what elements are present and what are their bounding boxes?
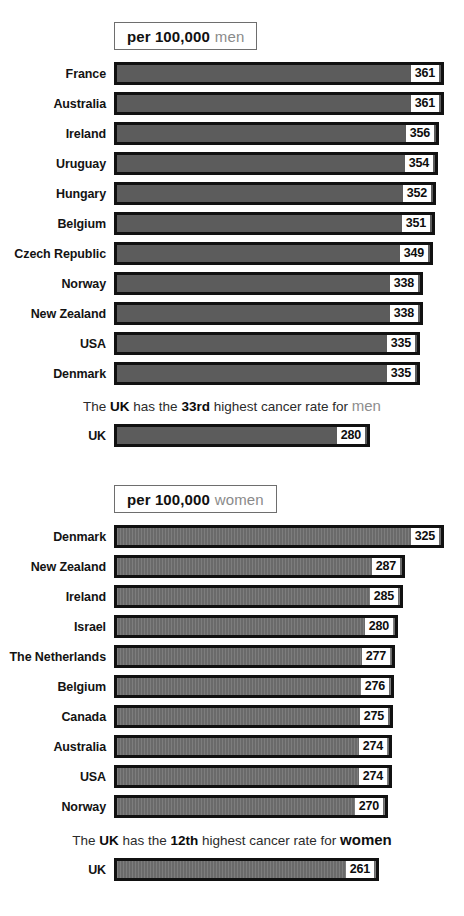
bar-row: Israel280	[0, 612, 464, 642]
bar-track: 361	[114, 59, 464, 89]
bar-row-label: Hungary	[0, 187, 114, 201]
bar-track: 325	[114, 522, 464, 552]
chart-women-annotation: The UK has the 12th highest cancer rate …	[0, 831, 464, 848]
bar-row: USA335	[0, 329, 464, 359]
bar: 349	[114, 242, 433, 265]
bar: 356	[114, 122, 439, 145]
bar: 338	[114, 302, 423, 325]
annotation-emphasis: women	[340, 831, 392, 848]
bar-track: 275	[114, 702, 464, 732]
bar: 335	[114, 362, 420, 385]
annotation-mid1: has the	[119, 833, 171, 848]
bar-row-label: Canada	[0, 710, 114, 724]
bar-value-label: 270	[355, 798, 383, 816]
bar: 277	[114, 645, 395, 668]
bar-value-label: 361	[411, 65, 439, 83]
bar-row: New Zealand338	[0, 299, 464, 329]
bar-value-label: 349	[400, 245, 428, 263]
annotation-prefix: The	[83, 399, 110, 414]
bar-row-label: Norway	[0, 800, 114, 814]
bar-value-label: 274	[359, 768, 387, 786]
annotation-emphasis: men	[352, 397, 381, 414]
bar: 361	[114, 92, 444, 115]
bar-row: Czech Republic349	[0, 239, 464, 269]
highlight-bar: 261	[114, 858, 379, 881]
annotation-mid2: highest cancer rate for	[198, 833, 340, 848]
bar-row-label: New Zealand	[0, 560, 114, 574]
highlight-bar-value: 280	[337, 427, 365, 445]
bar-row: USA274	[0, 762, 464, 792]
highlight-bar-value: 261	[346, 861, 374, 879]
bar-value-label: 338	[390, 305, 418, 323]
bar-value-label: 352	[403, 185, 431, 203]
bar: 276	[114, 675, 394, 698]
bar-row-label: Australia	[0, 740, 114, 754]
bar-row-label: Ireland	[0, 127, 114, 141]
chart-women-header-row: per 100,000women	[0, 485, 464, 513]
annotation-mid2: highest cancer rate for	[210, 399, 352, 414]
bar-row-label: Denmark	[0, 530, 114, 544]
bar-row-label: Denmark	[0, 367, 114, 381]
bar: 275	[114, 705, 393, 728]
bar-row: New Zealand287	[0, 552, 464, 582]
bar-track: 274	[114, 762, 464, 792]
highlight-bar: 280	[114, 424, 370, 447]
bar-row: Australia361	[0, 89, 464, 119]
bar-track: 338	[114, 269, 464, 299]
chart-women-highlight-row: UK 261	[0, 855, 464, 885]
bar: 287	[114, 555, 405, 578]
annotation-bold-uk: UK	[99, 833, 119, 848]
bar-row-label: Belgium	[0, 680, 114, 694]
bar-track: 276	[114, 672, 464, 702]
bar-value-label: 354	[405, 155, 433, 173]
bar-row-label: Ireland	[0, 590, 114, 604]
bar-row: Denmark325	[0, 522, 464, 552]
bar-value-label: 325	[411, 528, 439, 546]
bar-track: 285	[114, 582, 464, 612]
bar-row-label: New Zealand	[0, 307, 114, 321]
bar: 335	[114, 332, 420, 355]
bar: 280	[114, 615, 398, 638]
bar-value-label: 356	[406, 125, 434, 143]
bar-row: Ireland356	[0, 119, 464, 149]
chart-women-title-strong: per 100,000	[127, 491, 210, 508]
bar-value-label: 335	[387, 365, 415, 383]
chart-women-title-muted: women	[215, 491, 264, 508]
bar-row-label: Norway	[0, 277, 114, 291]
bar-row: Ireland285	[0, 582, 464, 612]
bar-value-label: 285	[370, 588, 398, 606]
annotation-prefix: The	[72, 833, 99, 848]
chart-men-highlight-row: UK 280	[0, 421, 464, 451]
bar: 351	[114, 212, 435, 235]
bar-row-label: USA	[0, 337, 114, 351]
bar-value-label: 335	[387, 335, 415, 353]
bar-row: Denmark335	[0, 359, 464, 389]
bar-row: Norway270	[0, 792, 464, 822]
bar-track: 287	[114, 552, 464, 582]
chart-men-bars: France361Australia361Ireland356Uruguay35…	[0, 59, 464, 389]
bar-track: 349	[114, 239, 464, 269]
bar-track: 280	[114, 612, 464, 642]
chart-women-bars: Denmark325New Zealand287Ireland285Israel…	[0, 522, 464, 822]
chart-men-title-muted: men	[215, 28, 244, 45]
bar-value-label: 361	[411, 95, 439, 113]
bar: 338	[114, 272, 423, 295]
bar-value-label: 287	[372, 558, 400, 576]
chart-men-title-strong: per 100,000	[127, 28, 210, 45]
bar-value-label: 276	[361, 678, 389, 696]
bar-row-label: USA	[0, 770, 114, 784]
annotation-bold-uk: UK	[110, 399, 130, 414]
bar-row: Canada275	[0, 702, 464, 732]
bar-track: 356	[114, 119, 464, 149]
bar-row: Belgium276	[0, 672, 464, 702]
bar-value-label: 275	[360, 708, 388, 726]
bar-row: Hungary352	[0, 179, 464, 209]
bar-row: Australia274	[0, 732, 464, 762]
chart-men: per 100,000men France361Australia361Irel…	[0, 22, 464, 451]
bar-track: 361	[114, 89, 464, 119]
bar-row-label: Australia	[0, 97, 114, 111]
bar-value-label: 280	[365, 618, 393, 636]
bar-value-label: 277	[362, 648, 390, 666]
bar: 354	[114, 152, 438, 175]
bar-track: 338	[114, 299, 464, 329]
